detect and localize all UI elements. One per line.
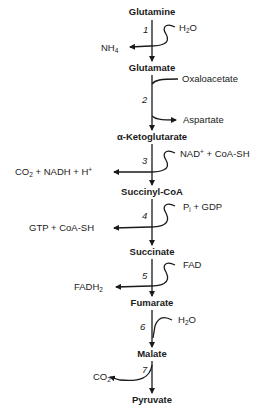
side-line-step-2-input [152, 79, 178, 84]
step-4-input: Pi + GDP [183, 201, 222, 213]
step-5-input: FAD [183, 259, 202, 270]
side-arrow-step-6 [153, 318, 172, 338]
metabolite-glutamine: Glutamine [129, 6, 175, 17]
step-4-output: GTP + CoA-SH [29, 222, 94, 233]
metabolite-succinyl-coa: Succinyl-CoA [121, 186, 183, 197]
step-number-3: 3 [142, 155, 148, 166]
step-number-4: 4 [142, 210, 147, 221]
step-number-7: 7 [142, 364, 148, 375]
step-6-input: H2O [178, 314, 196, 326]
step-2-output: Aspartate [183, 114, 224, 125]
step-number-6: 6 [140, 321, 146, 332]
pathway-diagram: Glutamine Glutamate α-Ketoglutarate Succ… [0, 0, 276, 419]
step-1-input: H2O [179, 22, 197, 34]
step-2-input: Oxaloacetate [182, 73, 238, 84]
metabolite-succinate: Succinate [130, 246, 175, 257]
step-7-output: CO2 [93, 371, 111, 383]
step-5-output: FADH2 [74, 281, 103, 293]
side-arrow-step-2-output [152, 116, 176, 120]
metabolite-pyruvate: Pyruvate [132, 394, 172, 405]
step-3-input: NAD+ + CoA-SH [180, 148, 250, 159]
step-number-1: 1 [143, 24, 148, 35]
step-1-output: NH4 [101, 42, 119, 54]
step-number-5: 5 [142, 270, 148, 281]
step-number-2: 2 [141, 94, 148, 105]
metabolite-alpha-ketoglutarate: α-Ketoglutarate [117, 131, 187, 142]
metabolite-glutamate: Glutamate [129, 62, 175, 73]
step-3-output: CO2 + NADH + H+ [15, 166, 92, 178]
metabolite-malate: Malate [137, 348, 167, 359]
metabolite-fumarate: Fumarate [131, 297, 174, 308]
